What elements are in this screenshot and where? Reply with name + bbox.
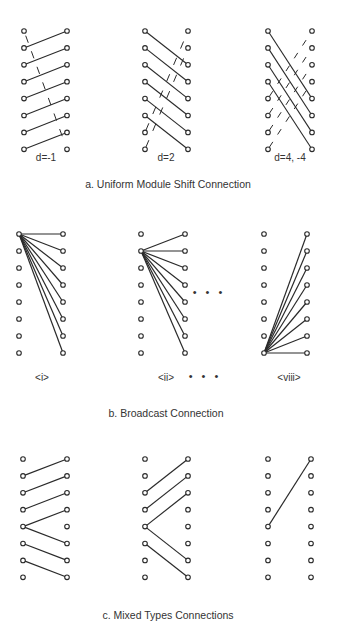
wraparound-segment: [167, 74, 170, 81]
input-node-icon: [266, 524, 271, 529]
output-node-icon: [65, 29, 70, 34]
input-node-icon: [262, 334, 267, 339]
wraparound-segment: [181, 41, 184, 48]
input-node-icon: [143, 63, 148, 68]
input-node-icon: [262, 351, 267, 356]
connection-line: [23, 544, 67, 561]
output-node-icon: [310, 63, 315, 68]
connection-line: [145, 544, 188, 578]
output-node-icon: [186, 474, 191, 479]
output-node-icon: [61, 334, 66, 339]
connection-line: [145, 99, 188, 133]
output-node-icon: [309, 558, 314, 563]
output-node-icon: [309, 575, 314, 580]
connection-line: [145, 476, 188, 510]
wraparound-segment: [278, 129, 282, 134]
output-node-icon: [186, 113, 191, 118]
input-node-icon: [139, 300, 144, 305]
output-node-icon: [186, 575, 191, 580]
wraparound-segment: [269, 142, 273, 147]
wraparound-segment: [31, 51, 34, 58]
input-node-icon: [266, 575, 271, 580]
output-node-icon: [65, 507, 70, 512]
connection-line: [145, 116, 188, 150]
output-node-icon: [310, 130, 315, 135]
wraparound-segment: [286, 99, 290, 104]
input-node-icon: [262, 249, 267, 254]
input-node-icon: [262, 300, 267, 305]
wraparound-segment: [286, 83, 290, 88]
input-node-icon: [266, 457, 271, 462]
output-node-icon: [61, 283, 66, 288]
input-node-icon: [21, 491, 26, 496]
output-node-icon: [305, 300, 310, 305]
connection-line: [23, 459, 67, 476]
output-node-icon: [183, 249, 188, 254]
output-node-icon: [183, 317, 188, 322]
connection-line: [145, 459, 188, 493]
output-node-icon: [186, 524, 191, 529]
ellipsis-label: • • •: [189, 370, 222, 382]
input-node-icon: [22, 147, 27, 152]
output-node-icon: [65, 524, 70, 529]
input-node-icon: [266, 46, 271, 51]
input-node-icon: [21, 457, 26, 462]
input-node-icon: [266, 63, 271, 68]
output-node-icon: [305, 317, 310, 322]
output-node-icon: [61, 317, 66, 322]
connection-line: [23, 493, 67, 510]
input-node-icon: [22, 130, 27, 135]
wraparound-segment: [146, 123, 149, 130]
input-node-icon: [17, 334, 22, 339]
output-node-icon: [310, 79, 315, 84]
output-node-icon: [186, 96, 191, 101]
wraparound-segment: [26, 36, 29, 43]
output-node-icon: [309, 541, 314, 546]
output-node-icon: [310, 113, 315, 118]
input-node-icon: [266, 541, 271, 546]
output-node-icon: [65, 63, 70, 68]
input-node-icon: [266, 29, 271, 34]
output-node-icon: [61, 351, 66, 356]
panel-b2-label: <ii>: [158, 372, 174, 383]
section-a-caption: a. Uniform Module Shift Connection: [85, 178, 251, 190]
input-node-icon: [266, 474, 271, 479]
connection-line: [264, 234, 307, 353]
input-node-icon: [139, 351, 144, 356]
output-node-icon: [183, 283, 188, 288]
input-node-icon: [21, 558, 26, 563]
panel-a1-label: d=-1: [36, 152, 56, 163]
connection-line: [24, 48, 67, 65]
output-node-icon: [183, 334, 188, 339]
section-c-caption: c. Mixed Types Connections: [102, 609, 233, 621]
wraparound-segment: [48, 98, 51, 105]
wraparound-segment: [294, 53, 298, 58]
connection-line: [23, 476, 67, 493]
input-node-icon: [266, 507, 271, 512]
connection-line: [145, 65, 188, 99]
output-node-icon: [65, 491, 70, 496]
input-node-icon: [266, 79, 271, 84]
input-node-icon: [266, 113, 271, 118]
input-node-icon: [262, 283, 267, 288]
output-node-icon: [310, 46, 315, 51]
output-node-icon: [305, 351, 310, 356]
input-node-icon: [17, 317, 22, 322]
output-node-icon: [65, 147, 70, 152]
output-node-icon: [186, 541, 191, 546]
output-node-icon: [305, 266, 310, 271]
output-node-icon: [65, 130, 70, 135]
connection-line: [141, 251, 185, 353]
output-node-icon: [65, 113, 70, 118]
input-node-icon: [139, 283, 144, 288]
connection-line: [24, 82, 67, 99]
connection-line: [24, 116, 67, 133]
input-node-icon: [266, 491, 271, 496]
wraparound-segment: [174, 58, 177, 65]
connection-line: [23, 510, 67, 527]
output-node-icon: [65, 474, 70, 479]
output-node-icon: [65, 96, 70, 101]
output-node-icon: [183, 300, 188, 305]
wraparound-segment: [174, 75, 177, 82]
input-node-icon: [266, 558, 271, 563]
